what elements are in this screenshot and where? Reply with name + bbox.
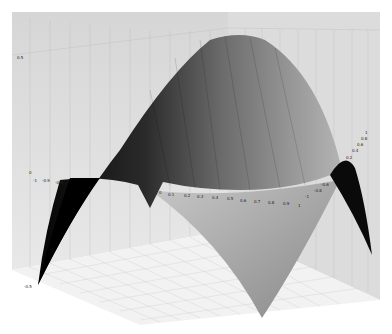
- surface-plot: 0.5 0 -0.5 -1 -0.9 -0.8 0 0.1 0.2 0.3 0.…: [0, 0, 392, 334]
- svg-text:-0.6: -0.6: [321, 182, 329, 187]
- svg-text:0.9: 0.9: [283, 201, 290, 206]
- svg-text:0.2: 0.2: [346, 155, 353, 160]
- svg-text:0.8: 0.8: [268, 200, 275, 205]
- svg-text:0.1: 0.1: [168, 192, 175, 197]
- svg-text:-0.8: -0.8: [314, 188, 322, 193]
- svg-text:0.6: 0.6: [357, 142, 364, 147]
- svg-text:0.8: 0.8: [361, 136, 368, 141]
- svg-text:-0.9: -0.9: [42, 178, 50, 183]
- svg-text:0.3: 0.3: [197, 194, 204, 199]
- svg-text:0.2: 0.2: [184, 193, 191, 198]
- svg-text:-0.8: -0.8: [55, 180, 63, 185]
- svg-text:-1: -1: [33, 178, 37, 183]
- svg-text:-0.5: -0.5: [24, 284, 32, 289]
- svg-text:0.6: 0.6: [240, 198, 247, 203]
- svg-text:0.5: 0.5: [17, 55, 24, 60]
- svg-text:-1: -1: [305, 194, 309, 199]
- svg-text:0.4: 0.4: [352, 148, 359, 153]
- svg-text:0.7: 0.7: [254, 199, 261, 204]
- svg-text:0.5: 0.5: [227, 196, 234, 201]
- svg-text:0.4: 0.4: [212, 195, 219, 200]
